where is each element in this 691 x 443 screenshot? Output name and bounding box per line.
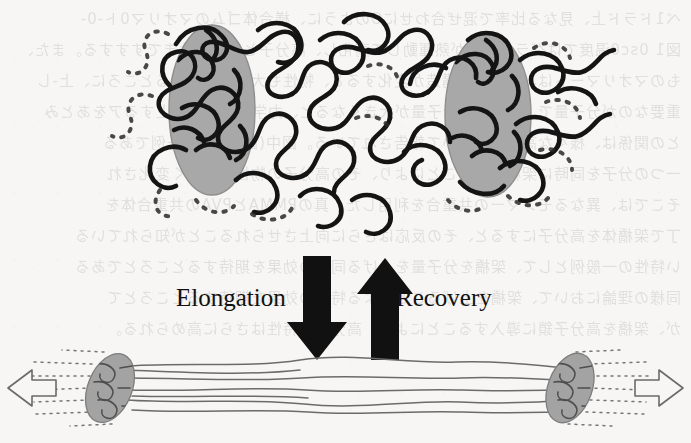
aggregate-domain-right — [445, 33, 531, 197]
elongation-label: Elongation — [176, 284, 286, 312]
figure-root: ベ1ドラド上、見なる比率で混ぜ合わせにOのように、様合体ゴムのマオリマ0ト-0-… — [0, 0, 691, 443]
aggregate-domain-left — [169, 25, 255, 195]
coiled-polymer-chains — [150, 14, 614, 234]
tension-arrow-left[interactable] — [8, 370, 56, 406]
chains-inside-left-domain — [174, 30, 246, 160]
faded-chain-fragments — [112, 31, 580, 219]
stretched-chain-dotted-tails — [30, 350, 650, 426]
page-bleedthrough-text: ベ1ドラド上、見なる比率で混ぜ合わせにOのように、様合体ゴムのマオリマ0ト-0-… — [0, 0, 691, 443]
chains-inside-bottom-left-domain — [94, 364, 134, 419]
recovery-label: Recovery — [396, 284, 492, 312]
elongated-oriented-state-panel — [0, 0, 691, 443]
aggregate-domain-bottom-right — [537, 347, 603, 430]
relaxed-coiled-state-panel — [0, 0, 691, 443]
tension-arrow-right[interactable] — [635, 370, 683, 406]
elongation-arrow-down[interactable] — [287, 256, 347, 360]
paper-grain-texture — [0, 0, 691, 443]
chains-inside-bottom-right-domain — [554, 364, 594, 419]
chains-inside-right-domain — [452, 40, 520, 166]
transition-arrows-panel — [0, 0, 691, 443]
aggregate-domain-bottom-left — [76, 346, 144, 429]
oriented-stretched-chains — [124, 357, 570, 413]
